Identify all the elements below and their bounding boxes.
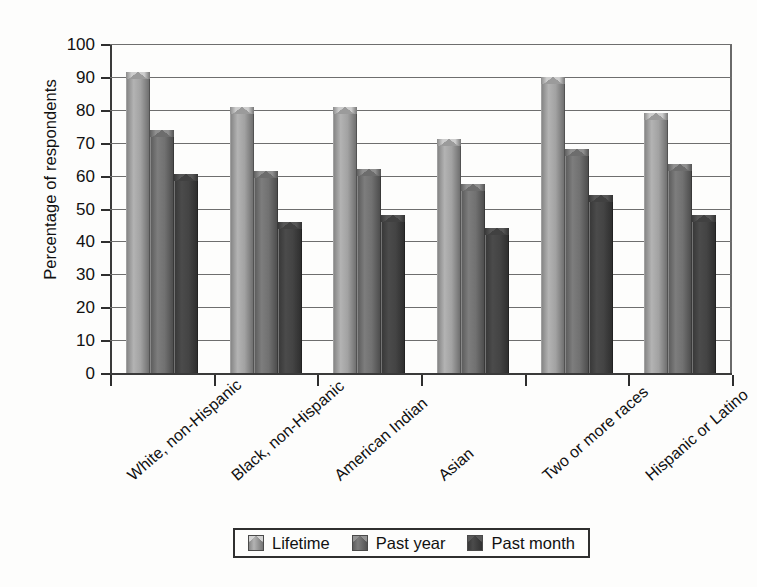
y-axis-tick-label: 80	[35, 102, 95, 119]
y-axis-tick-label: 100	[35, 36, 95, 53]
x-axis-category-label: American Indian	[331, 394, 431, 484]
bar-body	[461, 191, 485, 373]
gridline	[110, 110, 732, 111]
plot-right-edge	[730, 44, 732, 375]
y-axis-tick	[101, 241, 110, 243]
gridline	[110, 307, 732, 308]
y-axis-tick	[101, 44, 110, 46]
legend-swatch-notch	[353, 536, 367, 542]
y-axis-tick-label: 50	[35, 201, 95, 218]
x-axis-category-label: Two or more races	[539, 383, 652, 485]
bar-body	[541, 84, 565, 373]
x-axis-category-label: Hispanic or Latino	[642, 386, 752, 485]
x-axis-tick	[421, 375, 423, 386]
gridline	[110, 340, 732, 341]
bar	[150, 130, 174, 373]
bar-body	[230, 114, 254, 373]
bar-body	[126, 79, 150, 373]
x-axis-tick	[110, 375, 112, 386]
bar-body	[589, 202, 613, 373]
bar-body	[357, 176, 381, 373]
bar-body	[381, 222, 405, 373]
x-axis-category-label: Asian	[435, 444, 477, 484]
y-axis-tick-label: 60	[35, 168, 95, 185]
y-axis-tick-label: 30	[35, 266, 95, 283]
y-axis-tick-label: 90	[35, 69, 95, 86]
chart-legend: LifetimePast yearPast month	[233, 528, 590, 558]
gridline	[110, 209, 732, 210]
bar	[126, 72, 150, 373]
x-axis-tick	[317, 375, 319, 386]
legend-swatch	[467, 535, 483, 551]
bar-body	[174, 181, 198, 373]
bar-body	[437, 146, 461, 373]
bar	[692, 215, 716, 373]
legend-item: Past month	[467, 534, 574, 553]
bar-body	[333, 114, 357, 373]
gridline	[110, 241, 732, 242]
x-axis-tick	[214, 375, 216, 386]
bar-body	[150, 137, 174, 373]
legend-item: Lifetime	[248, 534, 330, 553]
gridline	[110, 44, 732, 45]
x-axis-tick	[628, 375, 630, 386]
bar	[644, 113, 668, 373]
bar	[541, 77, 565, 373]
y-axis-tick	[101, 373, 110, 375]
bar-body	[565, 156, 589, 373]
bar	[485, 228, 509, 373]
legend-swatch-notch	[249, 536, 263, 542]
gridline	[110, 143, 732, 144]
legend-label: Past month	[491, 534, 574, 553]
y-axis-tick-label: 70	[35, 135, 95, 152]
legend-label: Past year	[376, 534, 446, 553]
y-axis-tick	[101, 209, 110, 211]
y-axis-tick	[101, 307, 110, 309]
bar	[333, 107, 357, 373]
x-axis-tick	[525, 375, 527, 386]
bar	[381, 215, 405, 373]
y-axis-tick-label: 20	[35, 299, 95, 316]
x-axis-category-label: White, non-Hispanic	[124, 376, 245, 485]
gridline	[110, 77, 732, 78]
bar	[174, 174, 198, 373]
x-axis-tick	[732, 375, 734, 386]
bar-body	[254, 178, 278, 373]
bar-body	[278, 229, 302, 373]
legend-swatch	[352, 535, 368, 551]
bar-body	[692, 222, 716, 373]
legend-item: Past year	[352, 534, 446, 553]
bar	[230, 107, 254, 373]
legend-swatch	[248, 535, 264, 551]
y-axis-tick	[101, 274, 110, 276]
y-axis-tick-label: 0	[35, 365, 95, 382]
legend-swatch-notch	[468, 536, 482, 542]
bar-body	[668, 171, 692, 373]
x-axis-category-label: Black, non-Hispanic	[228, 377, 348, 485]
gridline	[110, 274, 732, 275]
bar	[565, 149, 589, 373]
bar-body	[485, 235, 509, 373]
bar-body	[644, 120, 668, 373]
y-axis-tick	[101, 340, 110, 342]
bar	[589, 195, 613, 373]
y-axis-tick	[101, 143, 110, 145]
plot-area	[110, 44, 732, 375]
bar	[278, 222, 302, 373]
y-axis-line	[110, 44, 112, 375]
y-axis-tick	[101, 77, 110, 79]
legend-label: Lifetime	[272, 534, 330, 553]
bar	[357, 169, 381, 373]
bar	[461, 184, 485, 373]
bar	[437, 139, 461, 373]
y-axis-tick-label: 40	[35, 233, 95, 250]
gridline	[110, 176, 732, 177]
chart-page: Percentage of respondents 01020304050607…	[0, 0, 757, 587]
y-axis-tick	[101, 110, 110, 112]
bar	[668, 164, 692, 373]
y-axis-tick-label: 10	[35, 332, 95, 349]
bar	[254, 171, 278, 373]
y-axis-tick	[101, 176, 110, 178]
